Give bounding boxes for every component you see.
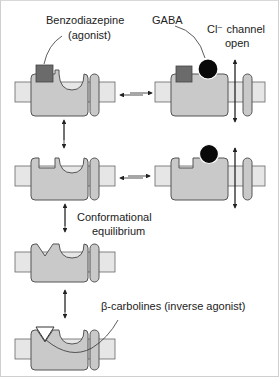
benzodiazepine-molecule xyxy=(36,65,53,82)
label-beta-carbolines: β-carbolines (inverse agonist) xyxy=(101,300,246,312)
receptor-inverse-conformation xyxy=(15,244,115,282)
label-conformational: Conformational xyxy=(77,211,152,223)
gaba-receptor-diagram xyxy=(0,0,279,377)
receptor-gaba-bound xyxy=(155,145,265,209)
receptor-benzodiazepine-bound xyxy=(15,36,115,116)
gaba-molecule xyxy=(198,59,218,79)
label-benzodiazepine: Benzodiazepine xyxy=(46,14,124,26)
label-equilibrium: equilibrium xyxy=(92,225,145,237)
gaba-molecule xyxy=(200,145,219,164)
receptor-beta-carboline-bound xyxy=(15,320,118,370)
label-agonist: (agonist) xyxy=(68,29,111,41)
receptor-resting xyxy=(15,158,115,200)
label-open: open xyxy=(225,37,249,49)
label-gaba: GABA xyxy=(152,14,183,26)
benzodiazepine-molecule xyxy=(176,66,192,82)
label-cl-channel: Cl⁻ channel xyxy=(207,23,265,35)
